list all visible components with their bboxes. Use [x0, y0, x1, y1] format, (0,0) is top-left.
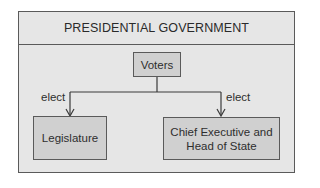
voters-node: Voters	[133, 52, 181, 77]
elect-label-left: elect	[41, 91, 65, 103]
chief-executive-label-line1: Chief Executive and	[170, 125, 272, 139]
elect-label-right: elect	[226, 91, 250, 103]
legislature-node: Legislature	[33, 116, 107, 160]
voters-label: Voters	[141, 58, 174, 72]
chief-executive-node: Chief Executive and Head of State	[163, 117, 280, 160]
legislature-label: Legislature	[42, 131, 98, 145]
chief-executive-label-line2: Head of State	[186, 139, 256, 153]
